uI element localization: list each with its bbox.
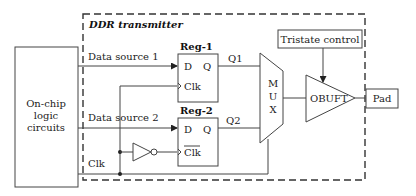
inverter-bubble	[151, 149, 157, 155]
junction-dot	[118, 172, 122, 176]
mux-label-x: X	[269, 104, 277, 115]
q2-label: Q2	[226, 115, 241, 126]
reg2-clk-pin: Clk	[184, 147, 202, 158]
clk-label: Clk	[88, 158, 106, 169]
pad-label: Pad	[373, 93, 392, 104]
reg1-q-pin: Q	[203, 61, 211, 72]
reg2-title: Reg-2	[180, 105, 213, 116]
mux-label-m: M	[268, 78, 278, 89]
logic-label-line2: logic	[34, 110, 59, 121]
reg1-clk-pin: Clk	[184, 81, 202, 92]
reg1-d-pin: D	[184, 61, 192, 72]
reg1-title: Reg-1	[180, 41, 213, 52]
reg2-d-pin: D	[184, 124, 192, 135]
tristate-control-label: Tristate control	[281, 34, 360, 45]
ddr-transmitter-diagram: DDR transmitter On-chip logic circuits D…	[0, 0, 416, 196]
reg2-q-pin: Q	[203, 124, 211, 135]
obuft-label: OBUFT	[310, 93, 348, 104]
logic-label-line3: circuits	[27, 122, 65, 133]
q1-label: Q1	[228, 53, 243, 64]
data-source-2-label: Data source 2	[88, 112, 159, 123]
data-source-1-label: Data source 1	[88, 51, 159, 62]
logic-label-line1: On-chip	[26, 98, 66, 109]
inverter-icon	[133, 143, 151, 161]
ddr-transmitter-label: DDR transmitter	[88, 19, 183, 30]
mux-label-u: U	[269, 91, 277, 102]
